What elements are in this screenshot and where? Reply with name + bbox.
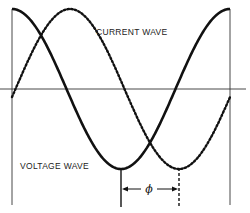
current-wave-label: CURRENT WAVE: [96, 27, 167, 37]
arrowhead-left-icon: [122, 187, 128, 192]
arrowhead-right-icon: [172, 187, 178, 192]
phase-diagram: ϕ CURRENT WAVE VOLTAGE WAVE: [0, 0, 250, 213]
voltage-wave-label: VOLTAGE WAVE: [20, 161, 89, 171]
phase-angle-label: ϕ: [145, 183, 153, 196]
